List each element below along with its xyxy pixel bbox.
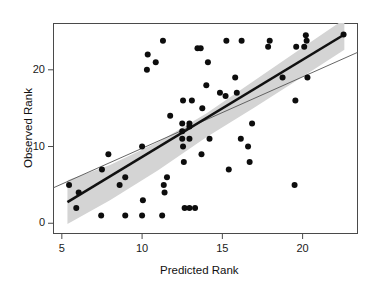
- data-point: [98, 213, 104, 219]
- data-point: [122, 213, 128, 219]
- data-point: [192, 205, 198, 211]
- data-point: [232, 74, 238, 80]
- data-point: [239, 38, 245, 44]
- data-point: [245, 144, 251, 150]
- data-point: [180, 144, 186, 150]
- data-point: [198, 45, 204, 51]
- data-point: [186, 136, 192, 142]
- data-point: [186, 124, 192, 130]
- data-point: [144, 67, 150, 73]
- data-point: [292, 97, 298, 103]
- data-point: [161, 182, 167, 188]
- data-point: [303, 32, 309, 38]
- data-point: [139, 144, 145, 150]
- data-point: [292, 182, 298, 188]
- data-point: [223, 38, 229, 44]
- data-point: [186, 205, 192, 211]
- data-point: [189, 97, 195, 103]
- data-point: [199, 105, 205, 111]
- data-point: [159, 213, 165, 219]
- data-point: [304, 38, 310, 44]
- confidence-band: [67, 19, 344, 224]
- data-point: [198, 151, 204, 157]
- data-point: [145, 51, 151, 57]
- data-point: [203, 82, 209, 88]
- x-tick-label: 5: [47, 242, 77, 254]
- x-tick-label: 20: [288, 242, 318, 254]
- data-point: [267, 38, 273, 44]
- data-point: [73, 205, 79, 211]
- data-point: [207, 136, 213, 142]
- data-point: [160, 38, 166, 44]
- y-tick-label: 0: [13, 216, 45, 228]
- data-point: [226, 167, 232, 173]
- regression-line: [67, 35, 344, 203]
- data-point: [139, 213, 145, 219]
- data-point: [205, 59, 211, 65]
- data-point: [280, 74, 286, 80]
- data-point: [249, 121, 255, 127]
- data-point: [167, 113, 173, 119]
- data-point: [223, 93, 229, 99]
- scatter-plot-figure: 510152001020 Observed Rank Predicted Ran…: [0, 0, 386, 289]
- data-point: [179, 136, 185, 142]
- data-point: [153, 59, 159, 65]
- data-point: [238, 136, 244, 142]
- x-tick-label: 15: [207, 242, 237, 254]
- x-axis-label: Predicted Rank: [160, 264, 239, 276]
- data-point: [162, 190, 168, 196]
- data-point: [181, 159, 187, 165]
- x-tick-label: 10: [127, 242, 157, 254]
- data-point: [304, 74, 310, 80]
- y-axis-label: Observed Rank: [22, 88, 34, 168]
- data-point: [117, 182, 123, 188]
- data-point: [76, 190, 82, 196]
- data-point: [234, 90, 240, 96]
- data-point: [341, 32, 347, 38]
- y-tick-label: 20: [13, 63, 45, 75]
- data-point: [293, 44, 299, 50]
- data-point: [265, 44, 271, 50]
- data-point: [140, 197, 146, 203]
- data-point: [180, 97, 186, 103]
- data-point: [99, 167, 105, 173]
- data-point: [164, 174, 170, 180]
- data-point: [66, 182, 72, 188]
- data-point: [179, 121, 185, 127]
- data-point: [247, 159, 253, 165]
- data-point: [105, 151, 111, 157]
- data-point: [179, 128, 185, 134]
- data-point: [122, 174, 128, 180]
- data-point: [217, 90, 223, 96]
- data-point: [301, 44, 307, 50]
